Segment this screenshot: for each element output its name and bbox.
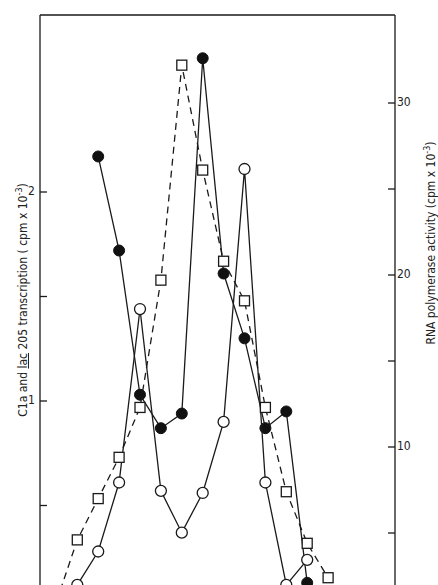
- open-square-marker: [177, 60, 187, 70]
- series-line: [56, 65, 328, 585]
- series-line: [98, 58, 307, 583]
- series-open-squares: [51, 60, 333, 585]
- right-tick-label: 20: [397, 267, 411, 281]
- open-square-marker: [93, 494, 103, 504]
- y-label-left-exponent: -3: [14, 187, 24, 195]
- open-circle-marker: [114, 477, 125, 488]
- open-circle-marker: [197, 487, 208, 498]
- y-label-right-close: ): [424, 141, 438, 145]
- open-circle-marker: [155, 485, 166, 496]
- open-square-marker: [240, 296, 250, 306]
- y-label-right-text: RNA polymerase activity (cpm x 10: [424, 154, 438, 345]
- open-circle-marker: [93, 546, 104, 557]
- filled-circle-marker: [218, 268, 229, 279]
- y-label-left-close: ): [16, 183, 30, 187]
- filled-circle-marker: [239, 333, 250, 344]
- open-square-marker: [302, 538, 312, 548]
- y-axis-label-left: C1a and lac 205 transcription ( cpm x 10…: [14, 160, 30, 440]
- filled-circle-marker: [155, 423, 166, 434]
- y-axis-label-right: RNA polymerase activity (cpm x 10-3): [422, 103, 438, 383]
- open-square-marker: [135, 402, 145, 412]
- y-label-left-suffix: 205 transcription ( cpm x 10: [16, 196, 30, 353]
- open-circle-marker: [302, 554, 313, 565]
- filled-circle-marker: [114, 245, 125, 256]
- open-circle-marker: [72, 579, 83, 585]
- filled-circle-marker: [302, 577, 313, 585]
- filled-circle-marker: [197, 53, 208, 64]
- open-square-marker: [323, 573, 333, 583]
- filled-circle-marker: [135, 389, 146, 400]
- right-axis-ticks: [388, 103, 395, 533]
- y-label-left-prefix: C1a and: [16, 369, 30, 417]
- open-square-marker: [219, 256, 229, 266]
- open-square-marker: [114, 452, 124, 462]
- open-square-marker: [156, 275, 166, 285]
- right-tick-label: 30: [397, 95, 411, 109]
- open-circle-marker: [218, 416, 229, 427]
- open-circle-marker: [281, 579, 292, 585]
- filled-circle-marker: [281, 406, 292, 417]
- series-filled-circles: [93, 53, 313, 585]
- series-layer: [51, 53, 333, 585]
- open-circle-marker: [260, 477, 271, 488]
- y-label-left-underlined: lac: [16, 353, 30, 369]
- left-axis-ticks: [40, 192, 47, 506]
- open-circle-marker: [135, 304, 146, 315]
- open-square-marker: [198, 165, 208, 175]
- open-square-marker: [72, 535, 82, 545]
- open-square-marker: [260, 402, 270, 412]
- y-label-right-exponent: -3: [422, 146, 432, 154]
- right-tick-label: 10: [397, 439, 411, 453]
- open-circle-marker: [239, 164, 250, 175]
- filled-circle-marker: [176, 408, 187, 419]
- open-square-marker: [281, 487, 291, 497]
- open-circle-marker: [176, 527, 187, 538]
- filled-circle-marker: [93, 151, 104, 162]
